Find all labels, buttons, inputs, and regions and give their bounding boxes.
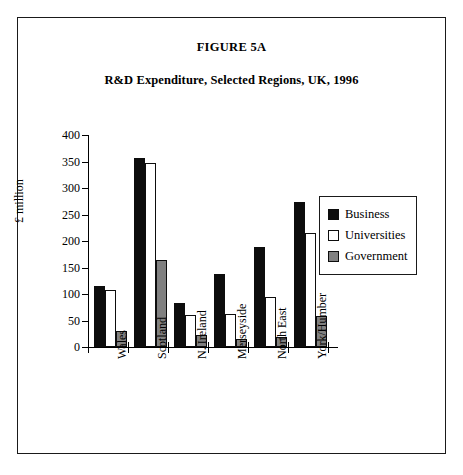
x-axis-tick [88, 342, 89, 353]
legend-swatch-government-icon [328, 251, 339, 262]
x-axis-label: York/Humber [315, 293, 330, 359]
figure-frame: FIGURE 5A R&D Expenditure, Selected Regi… [17, 17, 446, 454]
y-axis-tick [82, 215, 89, 216]
y-axis-tick [82, 241, 89, 242]
y-axis-tick-label: 150 [22, 262, 80, 274]
x-axis-label: Wales [115, 330, 130, 359]
legend-label: Universities [345, 229, 405, 242]
legend-swatch-universities-icon [328, 230, 339, 241]
x-axis-label: North East [275, 307, 290, 359]
chart-legend: BusinessUniversitiesGovernment [319, 196, 417, 275]
legend-label: Government [345, 250, 407, 263]
legend-swatch-business-icon [328, 209, 339, 220]
y-axis-tick-label: 100 [22, 288, 80, 300]
x-axis-label: Merseyside [235, 304, 250, 359]
legend-item: Universities [328, 225, 407, 246]
bar-business [254, 247, 265, 347]
y-axis-tick-label: 300 [22, 182, 80, 194]
y-axis-tick-label: 50 [22, 315, 80, 327]
bar-business [294, 202, 305, 347]
y-axis-tick [82, 162, 89, 163]
y-axis-tick-label: 0 [22, 341, 80, 353]
legend-item: Government [328, 246, 407, 267]
x-axis-label: N. Ireland [195, 310, 210, 359]
legend-label: Business [345, 208, 389, 221]
y-axis-tick [82, 294, 89, 295]
y-axis-tick-label: 350 [22, 156, 80, 168]
bar-group [134, 135, 167, 347]
y-axis-tick [82, 188, 89, 189]
bar-group [94, 135, 127, 347]
bar-business [94, 286, 105, 347]
y-axis-tick-label: 400 [22, 129, 80, 141]
y-axis-tick-label: 200 [22, 235, 80, 247]
legend-item: Business [328, 204, 407, 225]
y-axis-tick [82, 321, 89, 322]
bar-business [214, 274, 225, 347]
y-axis-tick [82, 268, 89, 269]
x-axis-label: Scotland [155, 317, 170, 359]
y-axis-tick-label: 250 [22, 209, 80, 221]
bar-business [174, 303, 185, 347]
bar-business [134, 158, 145, 347]
y-axis-tick [82, 135, 89, 136]
